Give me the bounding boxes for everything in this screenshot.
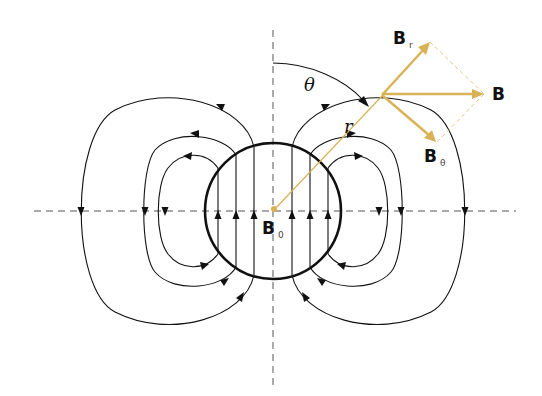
magnetized-sphere-diagram: θ r B 0 B r B B θ — [0, 0, 542, 396]
left-arrowhead — [317, 278, 326, 286]
Br-vector — [382, 48, 425, 95]
parallelogram-edge — [430, 42, 484, 94]
left-arrowhead — [183, 152, 192, 160]
Btheta-label: B — [424, 146, 437, 166]
parallelogram-edge — [436, 94, 484, 143]
B-arrowhead — [472, 89, 484, 99]
Br-label: B — [393, 28, 406, 48]
right-arrowhead — [220, 278, 229, 286]
Br-subscript: r — [409, 40, 413, 50]
origin-dot — [271, 206, 277, 212]
up-right-arrowhead — [236, 292, 244, 302]
B0-subscript: 0 — [278, 230, 284, 240]
B0-label: B — [262, 218, 275, 238]
up-left-arrowhead — [302, 292, 310, 302]
B-label: B — [492, 84, 505, 104]
theta-label: θ — [304, 74, 315, 95]
theta-arc — [273, 63, 363, 100]
r-label: r — [344, 116, 354, 137]
right-arrowhead — [354, 152, 363, 160]
Btheta-subscript: θ — [440, 158, 446, 168]
